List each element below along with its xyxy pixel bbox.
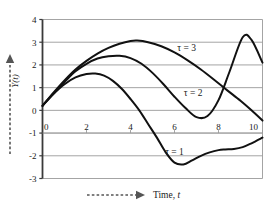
y-tick-label: -2 — [29, 151, 37, 161]
data-series — [43, 35, 263, 165]
series-label: τ = 2 — [184, 88, 203, 98]
x-axis-label-variable: t — [177, 190, 180, 200]
chart-figure: -3-2-101234 0246810 τ = 1τ = 2τ = 3 Y(t)… — [0, 0, 278, 208]
y-tick-labels: -3-2-101234 — [29, 15, 37, 184]
x-tick-label: 6 — [172, 122, 177, 132]
y-tick-label: -1 — [29, 128, 37, 138]
x-axis-label-group: Time, t — [86, 186, 236, 204]
grid-lines — [43, 42, 263, 156]
x-tick-label: 4 — [128, 122, 133, 132]
y-tick-label: 0 — [32, 106, 37, 116]
x-axis-label-word: Time, — [153, 190, 175, 200]
line-chart-plot: -3-2-101234 0246810 τ = 1τ = 2τ = 3 — [0, 0, 278, 208]
series-annotations: τ = 1τ = 2τ = 3 — [165, 43, 203, 157]
x-axis-label: Time, t — [153, 190, 180, 200]
x-axis-arrow-icon — [86, 189, 148, 201]
y-tick-label: 3 — [32, 38, 37, 48]
y-tick-label: 1 — [32, 83, 37, 93]
series-curve — [43, 41, 263, 121]
x-tick-label: 2 — [84, 122, 89, 132]
y-tick-label: 2 — [32, 60, 37, 70]
x-tick-label: 8 — [216, 122, 221, 132]
series-curve — [43, 73, 263, 164]
y-tick-label: 4 — [32, 15, 37, 25]
y-axis-label-group: Y(t) — [2, 40, 28, 160]
y-axis-label: Y(t) — [10, 42, 20, 120]
y-tick-label: -3 — [29, 174, 37, 184]
series-label: τ = 3 — [177, 43, 196, 53]
x-tick-label: 10 — [249, 122, 259, 132]
y-axis — [39, 20, 42, 179]
series-label: τ = 1 — [165, 147, 184, 157]
x-tick-label: 0 — [44, 122, 49, 132]
